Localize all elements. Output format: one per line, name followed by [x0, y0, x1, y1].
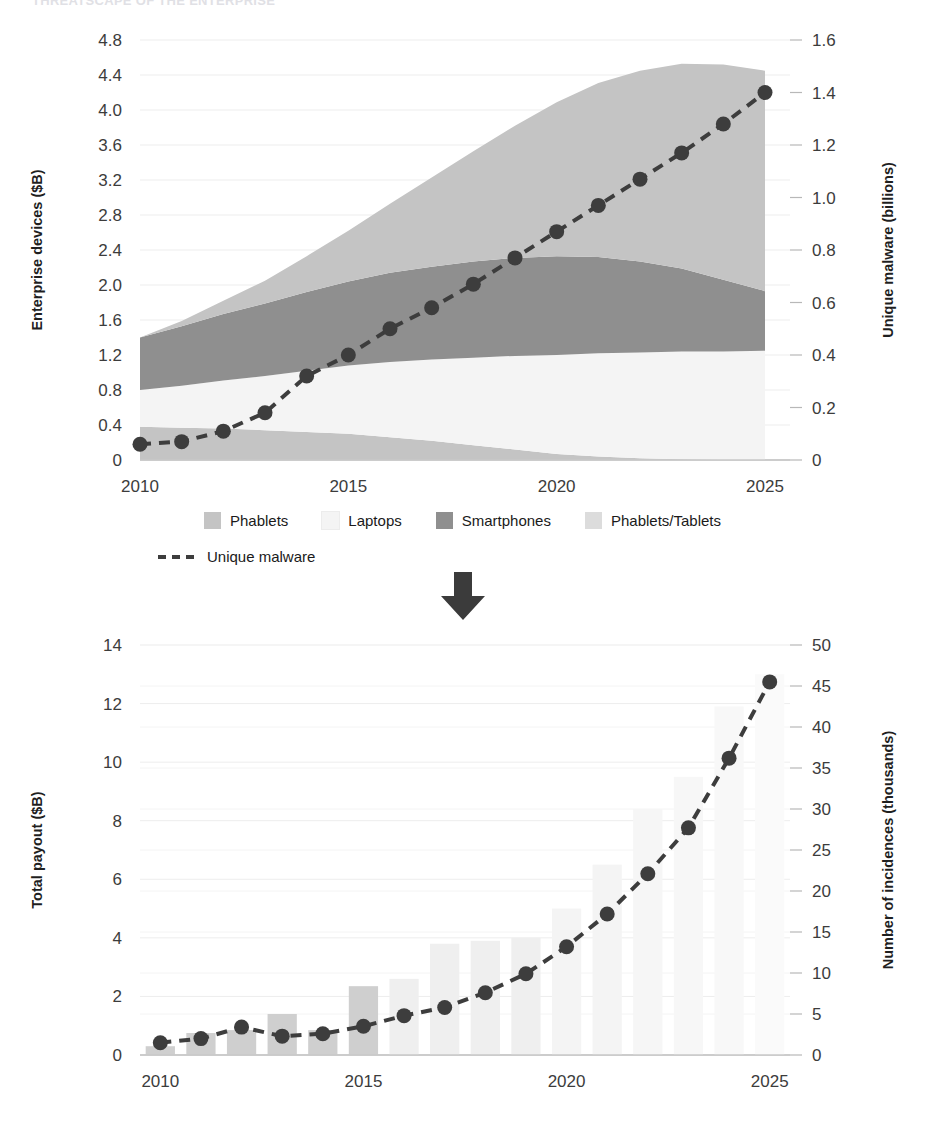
data-point [258, 405, 273, 420]
ransomware-payout-chart: 0246810121405101520253035404550201020152… [0, 615, 925, 1115]
bar [552, 909, 581, 1055]
y-axis-title: Total payout ($B) [29, 791, 45, 909]
legend-item-phablets-tablets[interactable]: Phablets/Tablets [585, 512, 721, 529]
data-point [315, 1026, 330, 1041]
y2-axis-tick-label: 50 [812, 636, 831, 655]
y2-axis-tick-label: 15 [812, 923, 831, 942]
y-axis-tick-label: 3.2 [98, 171, 122, 190]
y2-axis-tick-label: 40 [812, 718, 831, 737]
y2-axis-tick-label: 0.6 [812, 294, 836, 313]
y2-axis-tick-label: 0.8 [812, 241, 836, 260]
y-axis-tick-label: 3.6 [98, 136, 122, 155]
y2-axis-tick-label: 1.4 [812, 84, 836, 103]
x-axis-tick-label: 2015 [329, 477, 367, 496]
bar [511, 938, 540, 1055]
y-axis-tick-label: 10 [103, 753, 122, 772]
y2-axis-tick-label: 5 [812, 1005, 821, 1024]
data-point [758, 85, 773, 100]
y2-axis-tick-label: 10 [812, 964, 831, 983]
chart-legend-swatches: PhabletsLaptopsSmartphonesPhablets/Table… [0, 512, 925, 529]
data-point [600, 906, 615, 921]
y2-axis-tick-label: 20 [812, 882, 831, 901]
enterprise-devices-chart-canvas: 00.40.81.21.62.02.42.83.23.64.04.44.800.… [0, 20, 925, 500]
x-axis-tick-label: 2015 [345, 1072, 383, 1091]
data-point [216, 424, 231, 439]
y-axis-tick-label: 4 [113, 929, 122, 948]
y-axis-title: Enterprise devices ($B) [29, 169, 45, 330]
y-axis-tick-label: 0.4 [98, 416, 122, 435]
y-axis-tick-label: 0 [113, 1046, 122, 1065]
legend-item-laptops[interactable]: Laptops [322, 512, 401, 529]
data-point [478, 985, 493, 1000]
bar [755, 674, 784, 1055]
data-point [722, 751, 737, 766]
data-point [299, 369, 314, 384]
x-axis-tick-label: 2020 [548, 1072, 586, 1091]
y2-axis-tick-label: 0 [812, 451, 821, 470]
y2-axis-tick-label: 30 [812, 800, 831, 819]
y2-axis-title: Unique malware (billions) [880, 162, 896, 338]
data-point [674, 145, 689, 160]
data-point [640, 866, 655, 881]
y2-axis-tick-label: 1.6 [812, 31, 836, 50]
legend-swatch-icon [585, 512, 602, 529]
data-point [466, 277, 481, 292]
x-axis-tick-label: 2010 [141, 1072, 179, 1091]
bar [593, 865, 622, 1055]
ransomware-payout-chart-canvas: 0246810121405101520253035404550201020152… [0, 615, 925, 1115]
data-point [341, 348, 356, 363]
y-axis-tick-label: 0 [113, 451, 122, 470]
x-axis-tick-label: 2025 [746, 477, 784, 496]
chart-legend-line: Unique malware [0, 548, 925, 565]
y2-axis-tick-label: 35 [812, 759, 831, 778]
y-axis-tick-label: 4.4 [98, 66, 122, 85]
x-axis-tick-label: 2025 [751, 1072, 789, 1091]
data-point [508, 250, 523, 265]
bar [633, 809, 662, 1055]
y-axis-tick-label: 2.8 [98, 206, 122, 225]
y-axis-tick-label: 1.2 [98, 346, 122, 365]
bar [430, 944, 459, 1055]
y2-axis-title: Number of incidences (thousands) [880, 731, 896, 970]
y-axis-tick-label: 2.4 [98, 241, 122, 260]
x-axis-tick-label: 2020 [538, 477, 576, 496]
y2-axis-tick-label: 1.2 [812, 136, 836, 155]
y-axis-tick-label: 6 [113, 870, 122, 889]
data-point [591, 198, 606, 213]
y2-axis-tick-label: 0.2 [812, 399, 836, 418]
data-point [633, 172, 648, 187]
legend-item-unique-malware[interactable]: Unique malware [158, 548, 315, 565]
legend-swatch-icon [322, 512, 339, 529]
legend-label: Laptops [348, 512, 401, 529]
data-point [383, 321, 398, 336]
enterprise-devices-chart: 00.40.81.21.62.02.42.83.23.64.04.44.800.… [0, 20, 925, 500]
data-point [275, 1029, 290, 1044]
data-point [762, 674, 777, 689]
y-axis-tick-label: 2 [113, 987, 122, 1006]
y-axis-tick-label: 8 [113, 812, 122, 831]
y-axis-tick-label: 1.6 [98, 311, 122, 330]
legend-label: Smartphones [462, 512, 551, 529]
y-axis-tick-label: 0.8 [98, 381, 122, 400]
data-point [559, 939, 574, 954]
legend-item-phablets[interactable]: Phablets [204, 512, 288, 529]
y2-axis-tick-label: 25 [812, 841, 831, 860]
legend-label: Unique malware [207, 548, 315, 565]
legend-label: Phablets/Tablets [611, 512, 721, 529]
x-axis-tick-label: 2010 [121, 477, 159, 496]
data-point [437, 1000, 452, 1015]
legend-item-smartphones[interactable]: Smartphones [436, 512, 551, 529]
dashed-line-icon [158, 555, 198, 559]
legend-label: Phablets [230, 512, 288, 529]
data-point [549, 224, 564, 239]
y-axis-tick-label: 4.8 [98, 31, 122, 50]
data-point [397, 1008, 412, 1023]
legend-swatch-icon [436, 512, 453, 529]
y2-axis-tick-label: 0 [812, 1046, 821, 1065]
y-axis-tick-label: 12 [103, 695, 122, 714]
y2-axis-tick-label: 0.4 [812, 346, 836, 365]
data-point [193, 1031, 208, 1046]
data-point [681, 820, 696, 835]
y-axis-tick-label: 4.0 [98, 101, 122, 120]
data-point [716, 117, 731, 132]
